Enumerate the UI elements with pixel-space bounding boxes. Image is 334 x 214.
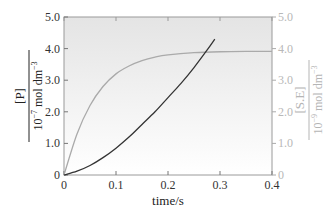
right-label-numerator: [S.E] bbox=[292, 86, 307, 113]
x-tick-label: 0 bbox=[61, 178, 67, 192]
left-axis-label: [P] 10−7 mol dm−3 bbox=[12, 50, 45, 142]
left-y-tick-label: 2.0 bbox=[45, 105, 60, 119]
right-y-tick-label: 2.0 bbox=[278, 105, 293, 119]
left-y-tick-label: 1.0 bbox=[45, 136, 60, 150]
right-y-tick-label: 3.0 bbox=[278, 73, 293, 87]
x-tick-label: 0.2 bbox=[161, 178, 176, 192]
left-y-tick-label: 4.0 bbox=[45, 42, 60, 56]
right-y-tick-label: 4.0 bbox=[278, 42, 293, 56]
right-label-denominator: 10−9 mol dm−3 bbox=[310, 65, 325, 134]
x-tick-label: 0.3 bbox=[213, 178, 228, 192]
x-tick-label: 0.1 bbox=[109, 178, 124, 192]
right-y-tick-label: 5.0 bbox=[278, 10, 293, 24]
left-y-tick-label: 0 bbox=[54, 168, 60, 182]
right-y-tick-label: 1.0 bbox=[278, 136, 293, 150]
left-label-numerator: [P] bbox=[12, 88, 27, 104]
right-y-tick-label: 0 bbox=[278, 168, 284, 182]
left-y-tick-label: 3.0 bbox=[45, 73, 60, 87]
left-label-denominator: 10−7 mol dm−3 bbox=[30, 61, 45, 130]
left-y-tick-label: 5.0 bbox=[45, 10, 60, 24]
right-axis-label: [S.E] 10−9 mol dm−3 bbox=[292, 60, 325, 140]
x-axis-label: time/s bbox=[152, 193, 184, 208]
chart: 00.10.20.30.401.02.03.04.05.001.02.03.04… bbox=[0, 0, 334, 214]
